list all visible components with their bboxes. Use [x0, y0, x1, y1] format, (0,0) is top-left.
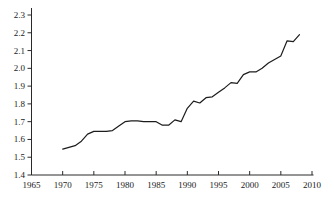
data-series-line	[63, 35, 300, 150]
y-tick-label: 1.5	[14, 152, 26, 162]
x-tick-label: 1980	[116, 180, 135, 190]
y-tick-label: 1.4	[14, 170, 26, 180]
x-tick-label: 1995	[210, 180, 229, 190]
y-tick-label: 1.8	[14, 99, 26, 109]
x-tick-label: 1965	[23, 180, 42, 190]
y-tick-label: 2.2	[14, 28, 25, 38]
chart-canvas: 1.41.51.61.71.81.92.02.12.22.31965197019…	[0, 0, 334, 199]
x-tick-label: 1985	[147, 180, 166, 190]
x-tick-label: 2005	[272, 180, 291, 190]
x-tick-label: 1975	[85, 180, 104, 190]
y-tick-label: 2.0	[14, 63, 26, 73]
line-chart: 1.41.51.61.71.81.92.02.12.22.31965197019…	[0, 0, 334, 199]
x-tick-label: 2010	[303, 180, 322, 190]
y-tick-label: 1.6	[14, 134, 26, 144]
y-tick-label: 2.1	[14, 46, 25, 56]
y-tick-label: 2.3	[14, 10, 26, 20]
x-tick-label: 1970	[54, 180, 73, 190]
y-tick-label: 1.9	[14, 81, 26, 91]
x-tick-label: 2000	[241, 180, 260, 190]
x-tick-label: 1990	[178, 180, 197, 190]
y-tick-label: 1.7	[14, 117, 26, 127]
